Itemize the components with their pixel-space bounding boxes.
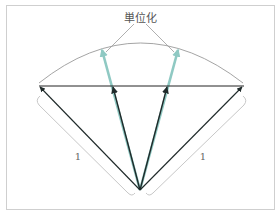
normalize-label: 単位化: [124, 11, 157, 25]
length-label-right: 1: [200, 151, 206, 162]
diagram-frame: [7, 6, 275, 210]
unit-vector-diagram: 単位化 1 1: [0, 0, 279, 215]
length-label-left: 1: [75, 151, 81, 162]
